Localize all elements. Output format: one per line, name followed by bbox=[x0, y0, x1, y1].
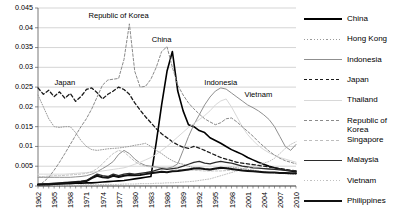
legend-line-swatch bbox=[304, 95, 342, 105]
legend-label: Singapore bbox=[347, 135, 383, 144]
legend-item[interactable]: Republic of Korea bbox=[304, 116, 387, 135]
legend-line-swatch bbox=[304, 14, 342, 24]
legend-label: Thailand bbox=[347, 95, 378, 104]
x-tick-label: 1995 bbox=[211, 192, 220, 208]
legend-label: Malaysia bbox=[347, 155, 379, 164]
legend-item[interactable]: Malaysia bbox=[304, 155, 379, 165]
series-line bbox=[38, 142, 296, 186]
chart-screenshot: 00.0050.010.0150.020.0250.030.0350.040.0… bbox=[0, 0, 404, 224]
x-tick-label: 1962 bbox=[34, 192, 43, 208]
series-annotation: Vietnam bbox=[245, 90, 273, 99]
x-tick-label: 1968 bbox=[66, 192, 75, 208]
legend-label: China bbox=[347, 14, 368, 23]
legend-item[interactable]: Thailand bbox=[304, 95, 378, 105]
x-tick-label: 1965 bbox=[50, 192, 59, 208]
legend-label: Indonesia bbox=[347, 55, 382, 64]
legend-item[interactable]: Indonesia bbox=[304, 55, 382, 65]
x-tick-label: 2010 bbox=[292, 192, 300, 208]
x-tick-label: 1977 bbox=[115, 192, 124, 208]
legend-line-swatch bbox=[304, 155, 342, 165]
legend-line-swatch bbox=[304, 55, 342, 65]
legend-label: Japan bbox=[347, 75, 369, 84]
y-tick-label: 0.03 bbox=[19, 62, 33, 71]
legend-item[interactable]: Hong Kong bbox=[304, 34, 387, 44]
legend-label: Hong Kong bbox=[347, 34, 387, 43]
x-tick-label: 2004 bbox=[260, 192, 269, 208]
series-line bbox=[38, 52, 296, 185]
chart-svg: 00.0050.010.0150.020.0250.030.0350.040.0… bbox=[0, 0, 300, 224]
legend-line-swatch bbox=[304, 34, 342, 44]
x-tick-label: 1971 bbox=[82, 192, 91, 208]
x-tick-label: 1998 bbox=[228, 192, 237, 208]
legend-label: Vietnam bbox=[347, 176, 376, 185]
series-line bbox=[38, 88, 296, 177]
legend-item[interactable]: Philippines bbox=[304, 196, 386, 206]
y-tick-label: 0.04 bbox=[19, 23, 33, 32]
y-tick-label: 0.015 bbox=[15, 122, 33, 131]
series-lines bbox=[38, 24, 296, 186]
legend-line-swatch bbox=[304, 116, 342, 126]
legend-line-swatch bbox=[304, 135, 342, 145]
y-tick-label: 0 bbox=[29, 181, 33, 190]
chart-legend: ChinaHong KongIndonesiaJapanThailandRepu… bbox=[300, 0, 404, 224]
x-tick-label: 1986 bbox=[163, 192, 172, 208]
y-tick-label: 0.005 bbox=[15, 161, 33, 170]
legend-line-swatch bbox=[304, 196, 342, 206]
legend-item[interactable]: Japan bbox=[304, 75, 369, 85]
y-tick-label: 0.025 bbox=[15, 82, 33, 91]
y-tick-label: 0.045 bbox=[15, 3, 33, 12]
legend-line-swatch bbox=[304, 75, 342, 85]
series-annotation: Indonesia bbox=[204, 78, 238, 87]
chart-annotations: JapanRepublic of KoreaChinaIndonesiaViet… bbox=[55, 11, 273, 99]
series-line bbox=[38, 87, 296, 171]
legend-label: Philippines bbox=[347, 196, 386, 205]
legend-item[interactable]: China bbox=[304, 14, 368, 24]
y-tick-label: 0.02 bbox=[19, 102, 33, 111]
legend-item[interactable]: Singapore bbox=[304, 135, 383, 145]
x-tick-label: 2007 bbox=[276, 192, 285, 208]
legend-line-swatch bbox=[304, 176, 342, 186]
y-axis: 00.0050.010.0150.020.0250.030.0350.040.0… bbox=[15, 3, 38, 190]
x-tick-label: 1992 bbox=[195, 192, 204, 208]
series-annotation: Japan bbox=[55, 78, 76, 87]
series-annotation: China bbox=[152, 35, 173, 44]
x-tick-label: 1983 bbox=[147, 192, 156, 208]
x-tick-label: 2001 bbox=[244, 192, 253, 208]
x-axis: 1962196519681971197419771980198319861989… bbox=[34, 186, 300, 208]
line-chart: 00.0050.010.0150.020.0250.030.0350.040.0… bbox=[0, 0, 300, 224]
series-annotation: Republic of Korea bbox=[88, 11, 149, 20]
legend-item[interactable]: Vietnam bbox=[304, 176, 376, 186]
x-tick-label: 1974 bbox=[99, 192, 108, 208]
y-tick-label: 0.01 bbox=[19, 141, 33, 150]
legend-label: Republic of Korea bbox=[347, 116, 387, 135]
y-tick-label: 0.035 bbox=[15, 42, 33, 51]
x-tick-label: 1980 bbox=[131, 192, 140, 208]
series-line bbox=[38, 168, 296, 185]
x-tick-label: 1989 bbox=[179, 192, 188, 208]
